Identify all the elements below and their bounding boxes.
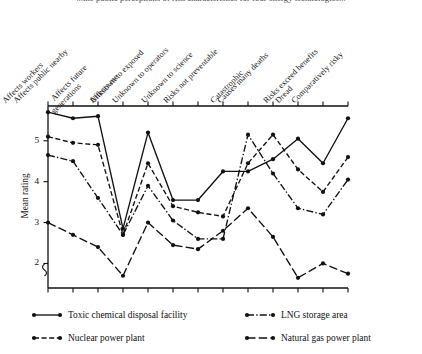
data-point: [296, 276, 300, 280]
legend-marker: [58, 313, 62, 317]
data-point: [196, 198, 200, 202]
data-point: [346, 116, 350, 120]
legend-swatch-dashed: [30, 332, 64, 344]
data-point: [171, 243, 175, 247]
data-point: [96, 114, 100, 118]
data-point: [46, 110, 50, 114]
x-axis-labels: Affects workersAffects public nearbyAffe…: [0, 0, 422, 100]
data-point: [321, 161, 325, 165]
legend-marker: [58, 336, 62, 340]
legend-marker: [32, 313, 36, 317]
data-point: [321, 190, 325, 194]
data-point: [146, 184, 150, 188]
axis-break-icon: [43, 264, 47, 276]
data-point: [121, 233, 125, 237]
y-tick-label: 3: [25, 217, 39, 227]
data-point: [196, 237, 200, 241]
data-point: [96, 143, 100, 147]
data-point: [46, 135, 50, 139]
legend-label: LNG storage area: [281, 310, 348, 320]
data-point: [71, 159, 75, 163]
legend-marker: [32, 336, 36, 340]
data-point: [296, 137, 300, 141]
legend-label: Nuclear power plant: [68, 333, 145, 343]
y-tick-label: 5: [25, 135, 39, 145]
legend-swatch-dashdot: [243, 309, 277, 321]
data-point: [246, 169, 250, 173]
data-point: [171, 218, 175, 222]
data-point: [71, 141, 75, 145]
data-point: [196, 210, 200, 214]
legend-marker: [245, 313, 249, 317]
data-point: [296, 206, 300, 210]
data-point: [246, 133, 250, 137]
legend-label: Toxic chemical disposal facility: [68, 310, 187, 320]
series-line-2: [48, 135, 348, 239]
legend-marker: [271, 336, 275, 340]
data-point: [96, 196, 100, 200]
data-point: [321, 212, 325, 216]
data-point: [271, 157, 275, 161]
series-line-3: [48, 208, 348, 278]
series-line-1: [48, 135, 348, 235]
data-point: [271, 171, 275, 175]
data-point: [46, 220, 50, 224]
data-point: [221, 214, 225, 218]
y-tick-label: 2: [25, 257, 39, 267]
data-point: [346, 178, 350, 182]
data-point: [271, 133, 275, 137]
data-point: [221, 169, 225, 173]
legend-swatch-solid: [30, 309, 64, 321]
data-point: [71, 116, 75, 120]
data-point: [171, 204, 175, 208]
chart-legend: Toxic chemical disposal facilityLNG stor…: [0, 300, 422, 354]
data-point: [246, 206, 250, 210]
x-axis-label: Comparatively risky: [290, 50, 345, 105]
data-point: [346, 272, 350, 276]
data-point: [221, 237, 225, 241]
data-point: [321, 261, 325, 265]
data-point: [96, 245, 100, 249]
data-point: [146, 220, 150, 224]
legend-marker: [245, 336, 249, 340]
data-point: [196, 247, 200, 251]
y-tick-label: 4: [25, 176, 39, 186]
data-point: [221, 229, 225, 233]
data-point: [146, 130, 150, 134]
legend-marker: [271, 313, 275, 317]
legend-label: Natural gas power plant: [281, 333, 371, 343]
data-point: [346, 155, 350, 159]
legend-swatch-longdash: [243, 332, 277, 344]
data-point: [171, 198, 175, 202]
data-point: [46, 153, 50, 157]
data-point: [71, 233, 75, 237]
data-point: [271, 235, 275, 239]
data-point: [121, 274, 125, 278]
chart-page: ...the public perceptions of risk charac…: [0, 0, 422, 354]
data-point: [296, 167, 300, 171]
data-point: [246, 161, 250, 165]
data-point: [146, 161, 150, 165]
